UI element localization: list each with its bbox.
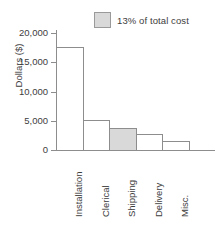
y-axis-tick <box>51 33 56 34</box>
bar-clerical <box>83 120 111 151</box>
bar-shipping <box>109 128 137 151</box>
x-axis-label-shipping: Shipping <box>126 180 137 217</box>
x-axis-label-clerical: Clerical <box>100 185 111 217</box>
x-axis-label-delivery: Delivery <box>153 183 164 217</box>
x-axis-label-installation: Installation <box>73 172 84 217</box>
y-axis-tick-label: 0 <box>0 144 48 155</box>
y-axis-tick-label: 5,000 <box>0 115 48 126</box>
bar-chart: 13% of total cost Dollars ($) 05,00010,0… <box>0 0 221 227</box>
y-axis-tick-label: 10,000 <box>0 86 48 97</box>
bar-installation <box>56 47 84 151</box>
bar-delivery <box>136 134 164 151</box>
x-axis-label-misc: Misc. <box>179 195 190 217</box>
legend-label: 13% of total cost <box>117 15 189 26</box>
legend-swatch-icon <box>94 12 111 28</box>
chart-legend: 13% of total cost <box>94 12 189 28</box>
bar-misc <box>162 141 190 151</box>
y-axis-tick-label: 20,000 <box>0 27 48 38</box>
y-axis-tick-label: 15,000 <box>0 56 48 67</box>
